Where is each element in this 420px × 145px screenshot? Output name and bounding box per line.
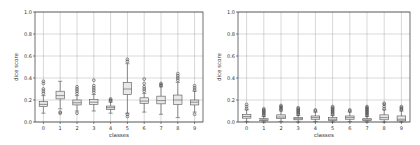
x-tick-label: 9 — [400, 125, 403, 131]
left-boxplot: 0.00.20.40.60.81.00123456789classesdice … — [0, 0, 210, 145]
y-tick-label: 0.2 — [227, 97, 235, 103]
x-tick-label: 8 — [383, 125, 386, 131]
y-tick-label: 0.6 — [227, 53, 235, 59]
box-class-8 — [174, 72, 182, 117]
iqr-box — [56, 91, 64, 99]
x-tick-label: 9 — [193, 125, 196, 131]
y-tick-label: 1.0 — [24, 9, 32, 15]
x-tick-label: 1 — [262, 125, 265, 131]
box-class-5 — [328, 105, 337, 122]
iqr-box — [397, 116, 406, 121]
y-tick-label: 0.0 — [227, 119, 235, 125]
x-tick-label: 0 — [245, 125, 248, 131]
x-tick-label: 4 — [109, 125, 112, 131]
box-class-9 — [397, 105, 406, 122]
y-tick-label: 0.4 — [24, 75, 32, 81]
iqr-box — [140, 98, 148, 104]
iqr-box — [123, 82, 131, 94]
box-class-5 — [123, 58, 131, 118]
y-tick-label: 0.8 — [227, 31, 235, 37]
x-tick-label: 5 — [331, 125, 334, 131]
y-tick-label: 0.2 — [24, 97, 32, 103]
x-tick-label: 7 — [159, 125, 162, 131]
x-tick-label: 1 — [59, 125, 62, 131]
box-class-1 — [260, 107, 269, 122]
y-tick-label: 0.0 — [24, 119, 32, 125]
x-tick-label: 3 — [297, 125, 300, 131]
y-axis-label: dice score — [13, 52, 19, 81]
box-class-7 — [363, 105, 372, 122]
box-class-9 — [190, 84, 198, 115]
left-boxplot-panel: 0.00.20.40.60.81.00123456789classesdice … — [0, 0, 210, 145]
y-tick-label: 0.8 — [24, 31, 32, 37]
x-tick-label: 7 — [365, 125, 368, 131]
y-tick-label: 0.6 — [24, 53, 32, 59]
box-class-0 — [39, 80, 47, 113]
x-tick-label: 6 — [348, 125, 351, 131]
x-axis-label: classes — [109, 132, 129, 138]
box-class-2 — [277, 104, 286, 121]
right-boxplot: 0.00.20.40.60.81.00123456789classesdice … — [210, 0, 420, 145]
x-tick-label: 3 — [92, 125, 95, 131]
x-tick-label: 6 — [143, 125, 146, 131]
box-class-8 — [380, 102, 389, 122]
x-tick-label: 4 — [314, 125, 317, 131]
y-axis-label: dice score — [216, 52, 222, 81]
x-tick-label: 8 — [176, 125, 179, 131]
x-tick-label: 2 — [75, 125, 78, 131]
right-boxplot-panel: 0.00.20.40.60.81.00123456789classesdice … — [210, 0, 420, 145]
y-tick-label: 0.4 — [227, 75, 235, 81]
x-tick-label: 2 — [279, 125, 282, 131]
box-class-0 — [242, 103, 251, 121]
x-axis-label: classes — [314, 132, 334, 138]
y-tick-label: 1.0 — [227, 9, 235, 15]
box-class-7 — [157, 82, 165, 114]
x-tick-label: 0 — [42, 125, 45, 131]
x-tick-label: 5 — [126, 125, 129, 131]
box-class-2 — [73, 85, 81, 114]
iqr-box — [157, 96, 165, 104]
